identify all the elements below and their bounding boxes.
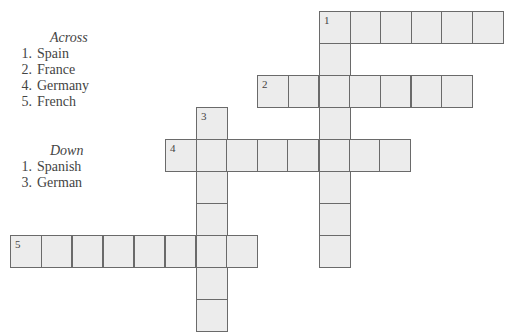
clue-number-label: 2 [262, 78, 268, 90]
crossword-cell[interactable]: 3 [196, 107, 228, 140]
crossword-cell[interactable] [287, 139, 319, 172]
crossword-cell[interactable] [319, 171, 351, 204]
crossword-cell[interactable] [379, 139, 411, 172]
clue-number-label: 3 [201, 110, 207, 122]
crossword-cell[interactable] [41, 235, 73, 268]
crossword-cell[interactable] [472, 11, 504, 44]
crossword-grid: 12345 [0, 0, 514, 332]
crossword-cell[interactable] [411, 11, 443, 44]
crossword-cell[interactable] [380, 11, 412, 44]
crossword-cell[interactable] [441, 75, 473, 108]
crossword-cell[interactable] [226, 235, 258, 268]
crossword-cell[interactable] [411, 75, 443, 108]
clue-number-label: 4 [170, 142, 176, 154]
crossword-cell[interactable] [257, 139, 289, 172]
crossword-cell[interactable] [196, 267, 228, 300]
crossword-cell[interactable] [72, 235, 104, 268]
crossword-cell[interactable] [226, 139, 258, 172]
clue-number-label: 5 [15, 238, 21, 250]
crossword-cell[interactable] [380, 75, 412, 108]
crossword-cell[interactable]: 4 [165, 139, 197, 172]
crossword-cell[interactable] [288, 75, 320, 108]
crossword-cell[interactable] [319, 203, 351, 236]
crossword-cell[interactable] [350, 11, 382, 44]
crossword-cell[interactable] [441, 11, 473, 44]
clue-number-label: 1 [324, 14, 330, 26]
crossword-cell[interactable] [103, 235, 135, 268]
crossword-cell[interactable] [196, 139, 228, 172]
crossword-cell[interactable] [196, 203, 228, 236]
crossword-cell[interactable] [319, 107, 351, 140]
crossword-cell[interactable] [319, 75, 351, 108]
crossword-cell[interactable] [319, 139, 351, 172]
crossword-cell[interactable]: 2 [257, 75, 289, 108]
crossword-cell[interactable] [349, 75, 381, 108]
crossword-cell[interactable]: 5 [10, 235, 42, 268]
crossword-cell[interactable]: 1 [319, 11, 351, 44]
crossword-cell[interactable] [319, 235, 351, 268]
crossword-cell[interactable] [196, 171, 228, 204]
crossword-cell[interactable] [319, 43, 351, 76]
crossword-cell[interactable] [165, 235, 197, 268]
crossword-cell[interactable] [196, 299, 228, 332]
crossword-cell[interactable] [134, 235, 166, 268]
crossword-cell[interactable] [349, 139, 381, 172]
crossword-cell[interactable] [196, 235, 228, 268]
